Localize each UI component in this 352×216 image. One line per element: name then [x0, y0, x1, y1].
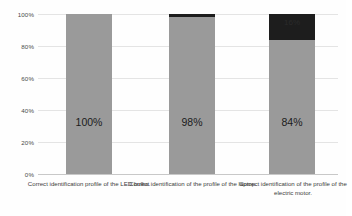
bar-value-label: 98% [169, 116, 215, 128]
bar-electric-motor[interactable]: 16% 84% [269, 14, 315, 174]
bar-segment-incorrect [169, 14, 215, 17]
y-axis-tick-100: 100% [0, 11, 34, 18]
bar-segment-correct [66, 14, 112, 174]
plot-area: 100% 98% 16% 84% [38, 14, 338, 174]
y-axis-tick-80: 80% [0, 43, 34, 50]
y-axis-tick-20: 20% [0, 139, 34, 146]
bar-segment-correct [269, 40, 315, 174]
bar-value-label: 84% [269, 116, 315, 128]
x-axis-baseline [38, 174, 338, 175]
y-axis-tick-60: 60% [0, 75, 34, 82]
bar-segment-correct [169, 17, 215, 174]
bar-led-bulbs[interactable]: 100% [66, 14, 112, 174]
bar-value-label: 100% [66, 116, 112, 128]
y-axis-tick-0: 0% [0, 171, 34, 178]
category-label-electric-motor: Correct identification of the profile of… [229, 180, 352, 197]
x-axis-category-labels: Correct identification profile of the LE… [38, 180, 338, 214]
bar-laptop[interactable]: 98% [169, 14, 215, 174]
bar-segment-incorrect-label: 16% [269, 18, 315, 27]
bar-segment-incorrect: 16% [269, 14, 315, 40]
y-axis-tick-40: 40% [0, 107, 34, 114]
